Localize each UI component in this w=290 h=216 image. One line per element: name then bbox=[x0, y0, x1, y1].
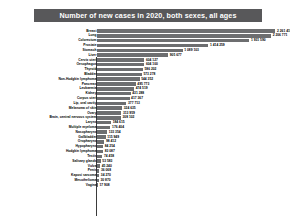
bar bbox=[97, 164, 101, 168]
bar bbox=[97, 73, 142, 77]
bar-value-label: 377 713 bbox=[128, 101, 140, 105]
bar bbox=[97, 130, 108, 134]
bar-row: Lung2 206 771 bbox=[0, 34, 290, 38]
bar bbox=[97, 179, 99, 183]
plot-area: Breast2 261 419Lung2 206 771Colorectum1 … bbox=[0, 28, 290, 188]
bar bbox=[97, 155, 103, 159]
bar-value-label: 36 068 bbox=[101, 168, 111, 172]
category-label: Stomach bbox=[83, 48, 97, 52]
category-label: Prostate bbox=[83, 43, 96, 47]
bar-row: Penis36 068 bbox=[0, 169, 290, 173]
bar-value-label: 45 240 bbox=[102, 164, 112, 168]
bar-row: Vulva45 240 bbox=[0, 164, 290, 168]
bar-value-label: 604 100 bbox=[146, 62, 158, 66]
category-label: Lung bbox=[88, 33, 96, 37]
bar-row: Vagina17 908 bbox=[0, 183, 290, 187]
bar bbox=[97, 53, 169, 57]
bar bbox=[97, 39, 250, 43]
bar-value-label: 115 949 bbox=[107, 135, 119, 139]
bar bbox=[97, 121, 112, 125]
category-label: Nasopharynx bbox=[76, 130, 97, 134]
category-label: Colorectum bbox=[78, 38, 96, 42]
category-label: Testis bbox=[87, 154, 96, 158]
bar-row: Nasopharynx133 354 bbox=[0, 130, 290, 134]
bar bbox=[97, 111, 122, 115]
bar-row: Kidney431 288 bbox=[0, 92, 290, 96]
bar-value-label: 17 908 bbox=[100, 183, 110, 187]
chart-title-banner: Number of new cases in 2020, both sexes,… bbox=[34, 9, 262, 22]
category-label: Oesophagus bbox=[77, 62, 97, 66]
bar bbox=[97, 92, 131, 96]
bar-row: Hypopharynx84 254 bbox=[0, 145, 290, 149]
bar bbox=[97, 116, 121, 120]
category-label: Ovary bbox=[87, 111, 96, 115]
bar bbox=[97, 29, 276, 33]
category-label: Vagina bbox=[86, 183, 97, 187]
bar bbox=[97, 126, 111, 130]
category-label: Cervix uteri bbox=[78, 58, 96, 62]
bar bbox=[97, 82, 136, 86]
bar-value-label: 474 519 bbox=[136, 86, 148, 90]
bar-row: Lip, oral cavity377 713 bbox=[0, 101, 290, 105]
bar bbox=[97, 106, 123, 110]
bar-row: Stomach1 089 103 bbox=[0, 48, 290, 52]
bar-row: Kaposi sarcoma34 270 bbox=[0, 174, 290, 178]
bar-row: Multiple myeloma176 404 bbox=[0, 125, 290, 129]
bar bbox=[97, 49, 183, 53]
bar-value-label: 176 404 bbox=[112, 125, 124, 129]
bar bbox=[97, 135, 106, 139]
category-label: Mesothelioma bbox=[75, 178, 97, 182]
bar bbox=[97, 77, 140, 81]
bar-row: Testis74 458 bbox=[0, 154, 290, 158]
bar-value-label: 2 261 419 bbox=[277, 29, 290, 33]
bar-row: Brain, central nervous system308 102 bbox=[0, 116, 290, 120]
bar-value-label: 53 583 bbox=[102, 159, 112, 163]
category-label: Thyroid bbox=[84, 67, 96, 71]
bar bbox=[97, 169, 100, 173]
bar-value-label: 74 458 bbox=[104, 154, 114, 158]
bar bbox=[97, 63, 145, 67]
bar-value-label: 905 677 bbox=[170, 53, 182, 57]
bar-row: Colorectum1 931 590 bbox=[0, 39, 290, 43]
bar-value-label: 324 635 bbox=[124, 106, 136, 110]
bar-value-label: 544 352 bbox=[141, 77, 153, 81]
bar-row: Melanoma of skin324 635 bbox=[0, 106, 290, 110]
category-label: Bladder bbox=[84, 72, 96, 76]
category-label: Pancreas bbox=[82, 82, 97, 86]
category-label: Vulva bbox=[88, 164, 97, 168]
bar-row: Prostate1 414 259 bbox=[0, 43, 290, 47]
category-label: Brain, central nervous system bbox=[49, 115, 96, 119]
bar-row: Hodgkin lymphoma83 087 bbox=[0, 150, 290, 154]
bar-value-label: 184 615 bbox=[113, 120, 125, 124]
bar-value-label: 431 288 bbox=[132, 91, 144, 95]
category-label: Melanoma of skin bbox=[69, 106, 97, 110]
bar bbox=[97, 44, 209, 48]
chart-figure: Number of new cases in 2020, both sexes,… bbox=[0, 0, 290, 216]
bar-value-label: 34 270 bbox=[101, 173, 111, 177]
category-label: Corpus uteri bbox=[77, 96, 97, 100]
category-label: Non-Hodgkin lymphoma bbox=[58, 77, 96, 81]
bar-value-label: 2 206 771 bbox=[273, 33, 288, 37]
bar-value-label: 586 202 bbox=[144, 67, 156, 71]
bar-value-label: 133 354 bbox=[109, 130, 121, 134]
bar bbox=[97, 150, 104, 154]
bar-value-label: 495 773 bbox=[137, 82, 149, 86]
bar bbox=[97, 97, 130, 101]
bar-value-label: 308 102 bbox=[122, 115, 134, 119]
bar-value-label: 1 414 259 bbox=[210, 43, 225, 47]
category-label: Gallbladder bbox=[78, 135, 96, 139]
category-label: Salivary glands bbox=[72, 159, 96, 163]
category-label: Hodgkin lymphoma bbox=[66, 149, 97, 153]
category-label: Oropharynx bbox=[78, 139, 97, 143]
bar bbox=[97, 145, 104, 149]
page-title: Number of new cases in 2020, both sexes,… bbox=[59, 12, 236, 19]
bar-row: Breast2 261 419 bbox=[0, 29, 290, 33]
bar-value-label: 417 367 bbox=[131, 96, 143, 100]
bar-row: Ovary313 959 bbox=[0, 111, 290, 115]
category-label: Multiple myeloma bbox=[69, 125, 97, 129]
bar-value-label: 604 127 bbox=[146, 58, 158, 62]
bar-value-label: 1 931 590 bbox=[251, 38, 266, 42]
bar-value-label: 30 870 bbox=[101, 178, 111, 182]
bar bbox=[97, 140, 105, 144]
category-label: Liver bbox=[89, 53, 97, 57]
